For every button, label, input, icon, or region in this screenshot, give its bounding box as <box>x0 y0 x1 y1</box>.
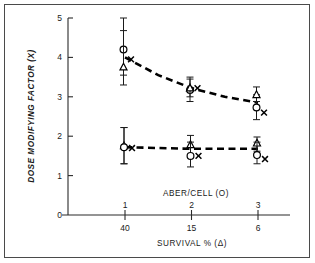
y-tick-group: 012345 <box>57 13 73 220</box>
chart-canvas: 012345 14021536 ABER/CELL (O) SURVIVAL %… <box>0 0 315 263</box>
y-tick-label: 0 <box>57 210 62 220</box>
y-tick-label: 5 <box>57 13 62 23</box>
x-tick-label-bottom: 15 <box>187 223 197 233</box>
x-tick-label-top: 2 <box>189 200 194 210</box>
x-axis-bottom-title: SURVIVAL % (Δ) <box>157 239 227 248</box>
x-tick-label-top: 1 <box>123 200 128 210</box>
marker-triangle <box>253 91 260 98</box>
marker-triangle <box>120 63 127 70</box>
marker-circle <box>254 152 261 159</box>
data-series-group <box>120 18 268 167</box>
y-tick-label: 4 <box>57 52 62 62</box>
marker-circle <box>253 104 260 111</box>
y-tick-label: 3 <box>57 92 62 102</box>
y-tick-label: 2 <box>57 131 62 141</box>
x-tick-label-top: 3 <box>256 200 261 210</box>
x-tick-group: 14021536 <box>120 200 260 233</box>
x-tick-label-bottom: 6 <box>256 223 261 233</box>
x-axis: 14021536 <box>62 200 290 233</box>
figure-root: 012345 14021536 ABER/CELL (O) SURVIVAL %… <box>0 0 315 263</box>
series-upper-circle <box>120 18 260 120</box>
marker-circle <box>187 153 194 160</box>
x-tick-label-bottom: 40 <box>120 223 130 233</box>
upper-trend <box>125 57 258 102</box>
y-tick-label: 1 <box>57 171 62 181</box>
y-axis: 012345 <box>57 13 73 220</box>
marker-circle <box>121 144 128 151</box>
y-axis-title: DOSE MODIFYING FACTOR (X) <box>27 49 36 182</box>
series-upper-x <box>128 56 267 115</box>
x-axis-top-title: ABER/CELL (O) <box>163 189 229 198</box>
